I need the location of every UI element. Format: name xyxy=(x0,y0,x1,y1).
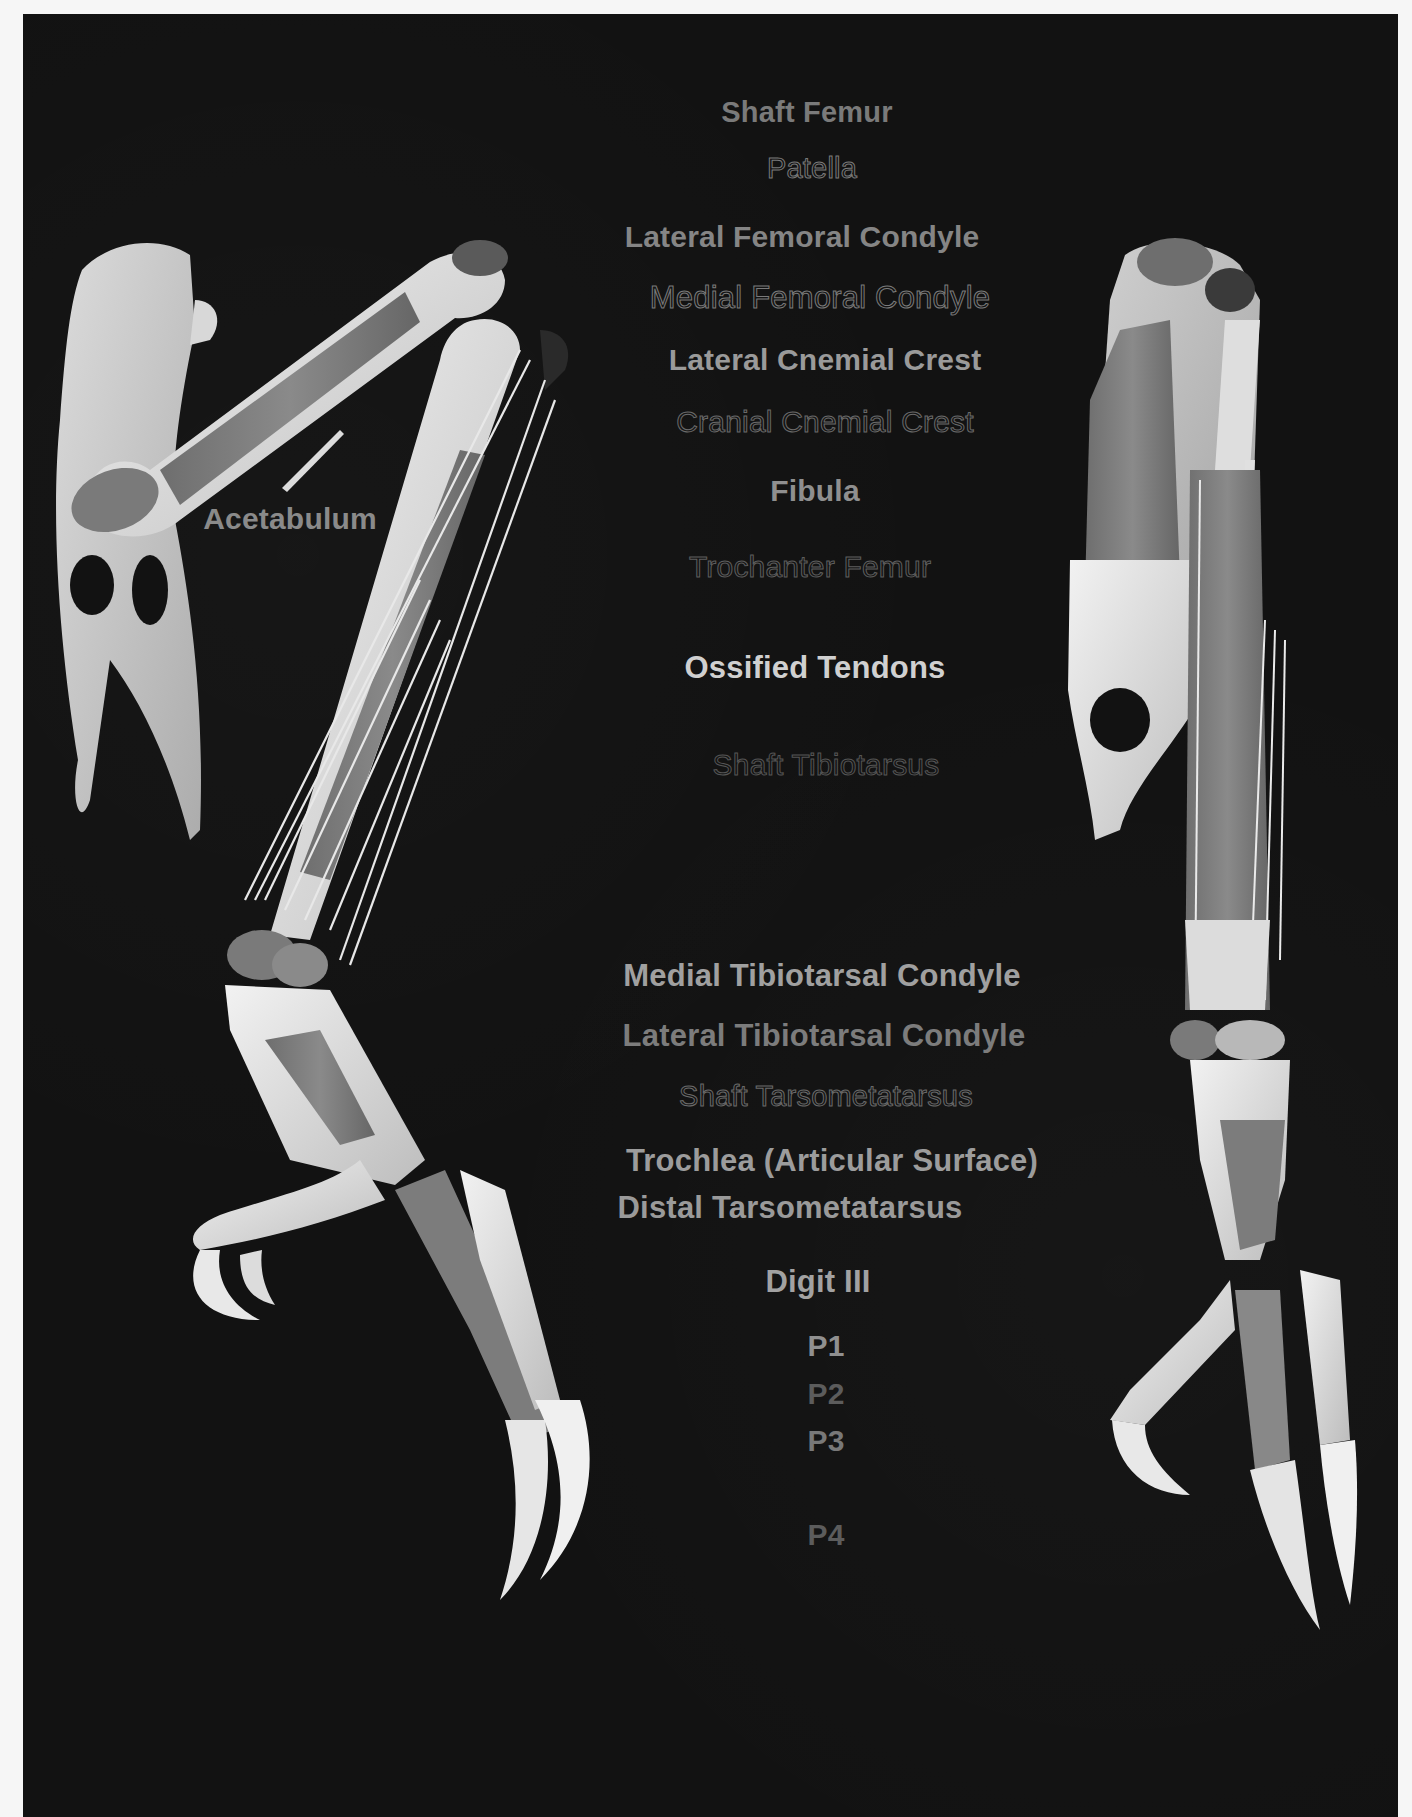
label-medial-femoral-condyle: Medial Femoral Condyle xyxy=(650,280,990,316)
label-medial-tibiotarsal-condyle: Medial Tibiotarsal Condyle xyxy=(623,958,1020,994)
toe-right-hallux xyxy=(1110,1280,1235,1425)
label-shaft-tibiotarsus: Shaft Tibiotarsus xyxy=(713,748,940,782)
toe-right-mid xyxy=(1235,1290,1290,1470)
label-p4: P4 xyxy=(807,1518,844,1552)
pelvis-bone xyxy=(56,243,201,840)
label-lateral-tibiotarsal-condyle: Lateral Tibiotarsal Condyle xyxy=(623,1018,1026,1054)
label-trochlea: Trochlea (Articular Surface) xyxy=(626,1143,1038,1179)
label-acetabulum: Acetabulum xyxy=(203,502,377,536)
label-cranial-cnemial-crest: Cranial Cnemial Crest xyxy=(676,405,974,439)
label-shaft-femur: Shaft Femur xyxy=(721,96,892,129)
left-view-skeleton xyxy=(56,240,590,1600)
label-patella: Patella xyxy=(767,152,857,185)
label-fibula: Fibula xyxy=(770,474,860,508)
label-distal-tarsometatarsus: Distal Tarsometatarsus xyxy=(618,1190,963,1226)
talon-right-outer xyxy=(1320,1440,1357,1605)
talon-front-1 xyxy=(500,1420,548,1600)
anatomy-illustration xyxy=(0,0,1412,1817)
label-trochanter-femur: Trochanter Femur xyxy=(689,550,931,584)
tibiotarsal-condyle-right xyxy=(1170,1020,1220,1060)
label-ossified-tendons: Ossified Tendons xyxy=(685,650,946,686)
label-shaft-tarsometatarsus: Shaft Tarsometatarsus xyxy=(679,1080,973,1113)
label-p3: P3 xyxy=(807,1424,844,1458)
talon-right-hallux xyxy=(1112,1420,1190,1495)
label-lateral-cnemial-crest: Lateral Cnemial Crest xyxy=(669,343,982,377)
talon-right-mid xyxy=(1250,1460,1320,1630)
label-lateral-femoral-condyle: Lateral Femoral Condyle xyxy=(625,220,980,254)
label-digit-iii: Digit III xyxy=(765,1264,870,1300)
label-p2: P2 xyxy=(807,1377,844,1411)
toe-right-outer xyxy=(1300,1270,1350,1445)
toe-rear xyxy=(193,1160,385,1250)
label-p1: P1 xyxy=(807,1329,844,1363)
right-view-skeleton xyxy=(1068,238,1357,1630)
